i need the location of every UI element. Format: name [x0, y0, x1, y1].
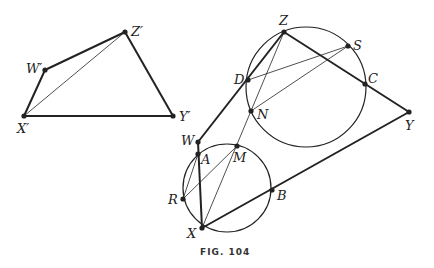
point-n — [248, 108, 253, 113]
label-x-prime: X′ — [16, 121, 29, 136]
segment-z-y-prime — [125, 32, 173, 116]
label-x: X — [186, 226, 197, 241]
point-m — [234, 143, 239, 148]
quadrilateral-wxyz-prime — [24, 32, 173, 116]
label-n: N — [256, 107, 269, 122]
segment-r-a — [183, 154, 198, 199]
point-y — [406, 109, 411, 114]
lower-circle — [183, 144, 271, 232]
segment-w-z-prime — [45, 32, 125, 70]
label-z-prime: Z′ — [130, 24, 143, 39]
point-s — [345, 43, 350, 48]
label-a: A — [200, 152, 210, 167]
points-left — [21, 29, 175, 118]
label-y: Y — [405, 118, 415, 133]
label-r: R — [167, 192, 178, 207]
point-w-prime — [42, 67, 47, 72]
point-z-prime — [122, 29, 127, 34]
label-w-prime: W′ — [26, 61, 42, 76]
label-w: W — [181, 133, 196, 148]
point-x — [199, 225, 204, 230]
label-c: C — [368, 71, 378, 86]
segment-y-x — [202, 112, 409, 228]
point-z — [281, 29, 286, 34]
point-y-prime — [170, 113, 175, 118]
label-d: D — [233, 72, 245, 87]
point-d — [245, 77, 250, 82]
geometry-figure: Z′ W′ X′ Y′ Z S D C N Y W A M R — [0, 0, 434, 268]
point-a — [195, 151, 200, 156]
diagonal-x-z — [202, 32, 284, 228]
figure-caption: FIG. 104 — [200, 247, 250, 257]
segment-x-w-prime — [24, 70, 45, 116]
label-b: B — [276, 188, 287, 203]
label-z: Z — [278, 13, 289, 28]
point-x-prime — [21, 113, 26, 118]
point-b — [269, 187, 274, 192]
point-w — [195, 139, 200, 144]
point-r — [180, 196, 185, 201]
segment-w-z — [198, 32, 284, 142]
point-c — [362, 81, 367, 86]
label-m: M — [232, 150, 247, 165]
label-y-prime: Y′ — [179, 109, 191, 124]
label-s: S — [353, 38, 362, 53]
